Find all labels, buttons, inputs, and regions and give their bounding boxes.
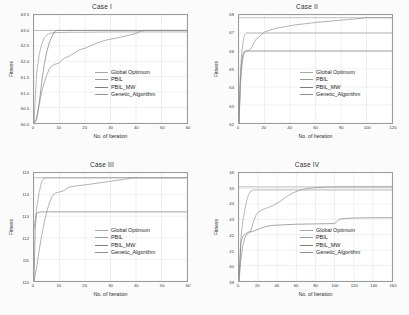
y-tick-label: 62.0 [21,59,29,64]
panel-title: Case IV [205,161,409,168]
y-tick-label: 110 [22,280,29,285]
x-tick-label: 50 [160,125,165,130]
legend-item: PBIL [95,76,155,83]
legend-line-swatch [300,79,313,80]
legend: Global OptimumPBILPBIL_MWGenetic_Algorit… [300,69,360,98]
x-tick-label: 40 [134,283,139,288]
legend-label: Genetic_Algorithm [111,249,155,256]
panel-title: Case I [0,3,204,10]
x-tick-label: 100 [364,125,371,130]
y-tick-labels: 3940414243444546 [205,172,236,282]
legend-label: Global Optimum [111,69,150,76]
legend-line-swatch [300,245,313,246]
y-tick-label: 60.0 [21,122,29,127]
legend-item: Global Optimum [300,69,360,76]
figure-panel-grid: Case I Fitness 60.060.561.061.562.062.56… [0,0,409,315]
y-tick-label: 61.5 [21,74,29,79]
x-tick-label: 40 [287,125,292,130]
legend-label: Global Optimum [316,227,355,234]
legend-line-swatch [300,230,313,231]
y-tick-label: 64 [229,85,234,90]
legend: Global OptimumPBILPBIL_MWGenetic_Algorit… [300,227,360,256]
chart-panel-case-iii: Case III Fitness 110111112113114115 0102… [0,158,204,315]
legend-line-swatch [95,79,108,80]
y-tick-label: 63.5 [21,12,29,17]
legend-label: PBIL [316,234,328,241]
y-tick-label: 68 [229,12,234,17]
legend-item: Global Optimum [95,69,155,76]
x-tick-label: 0 [32,283,34,288]
y-tick-label: 42 [229,232,234,237]
x-tick-label: 20 [261,125,266,130]
x-axis-title: No. of Iteration [238,133,393,139]
x-tick-label: 60 [186,283,191,288]
y-tick-labels: 62636465666768 [205,14,236,124]
x-tick-label: 100 [331,283,338,288]
x-tick-label: 60 [294,283,299,288]
y-tick-label: 63.0 [21,27,29,32]
x-tick-label: 20 [255,283,260,288]
x-tick-label: 20 [82,283,87,288]
legend-label: PBIL [316,76,328,83]
x-tick-label: 120 [351,283,358,288]
y-tick-label: 112 [22,236,29,241]
legend-label: Genetic_Algorithm [316,91,360,98]
y-tick-label: 65 [229,67,234,72]
x-tick-label: 120 [390,125,397,130]
chart-panel-case-iv: Case IV Fitness 3940414243444546 0204060… [205,158,409,315]
legend-line-swatch [300,87,313,88]
y-tick-label: 39 [229,280,234,285]
legend: Global OptimumPBILPBIL_MWGenetic_Algorit… [95,227,155,256]
legend-label: PBIL_MW [316,242,340,249]
legend-line-swatch [300,237,313,238]
x-tick-label: 0 [237,283,239,288]
y-tick-label: 61.0 [21,90,29,95]
legend-item: PBIL [300,234,360,241]
legend-line-swatch [95,245,108,246]
legend-item: PBIL_MW [300,84,360,91]
legend-item: PBIL [95,234,155,241]
legend-label: Global Optimum [111,227,150,234]
legend-line-swatch [95,94,108,95]
x-tick-label: 60 [313,125,318,130]
legend-label: Global Optimum [316,69,355,76]
x-tick-label: 140 [370,283,377,288]
x-tick-label: 80 [339,125,344,130]
legend-item: PBIL_MW [95,84,155,91]
legend-item: Genetic_Algorithm [95,91,155,98]
y-tick-label: 62.5 [21,43,29,48]
x-tick-label: 30 [108,125,113,130]
y-tick-label: 43 [229,217,234,222]
legend-label: PBIL_MW [111,84,135,91]
legend-item: Genetic_Algorithm [95,249,155,256]
legend-item: Global Optimum [95,227,155,234]
legend-line-swatch [300,252,313,253]
y-tick-label: 62 [229,122,234,127]
x-tick-label: 160 [390,283,397,288]
y-tick-labels: 110111112113114115 [0,172,31,282]
chart-panel-case-ii: Case II Fitness 62636465666768 020406080… [205,0,409,157]
x-axis-title: No. of Iteration [33,291,188,297]
x-tick-label: 0 [32,125,34,130]
legend-item: PBIL [300,76,360,83]
y-tick-label: 41 [229,248,234,253]
y-tick-label: 114 [22,192,29,197]
x-tick-label: 10 [56,283,61,288]
y-tick-label: 45 [229,185,234,190]
panel-title: Case II [205,3,409,10]
legend-line-swatch [300,94,313,95]
legend-label: PBIL_MW [111,242,135,249]
x-tick-label: 0 [237,125,239,130]
legend-label: PBIL [111,76,123,83]
y-tick-label: 115 [22,170,29,175]
x-tick-label: 60 [186,125,191,130]
legend-line-swatch [95,72,108,73]
legend-item: Genetic_Algorithm [300,91,360,98]
legend: Global OptimumPBILPBIL_MWGenetic_Algorit… [95,69,155,98]
legend-line-swatch [95,230,108,231]
x-tick-label: 10 [56,125,61,130]
y-tick-labels: 60.060.561.061.562.062.563.063.5 [0,14,31,124]
legend-label: Genetic_Algorithm [111,91,155,98]
y-tick-label: 67 [229,30,234,35]
legend-item: PBIL_MW [300,242,360,249]
